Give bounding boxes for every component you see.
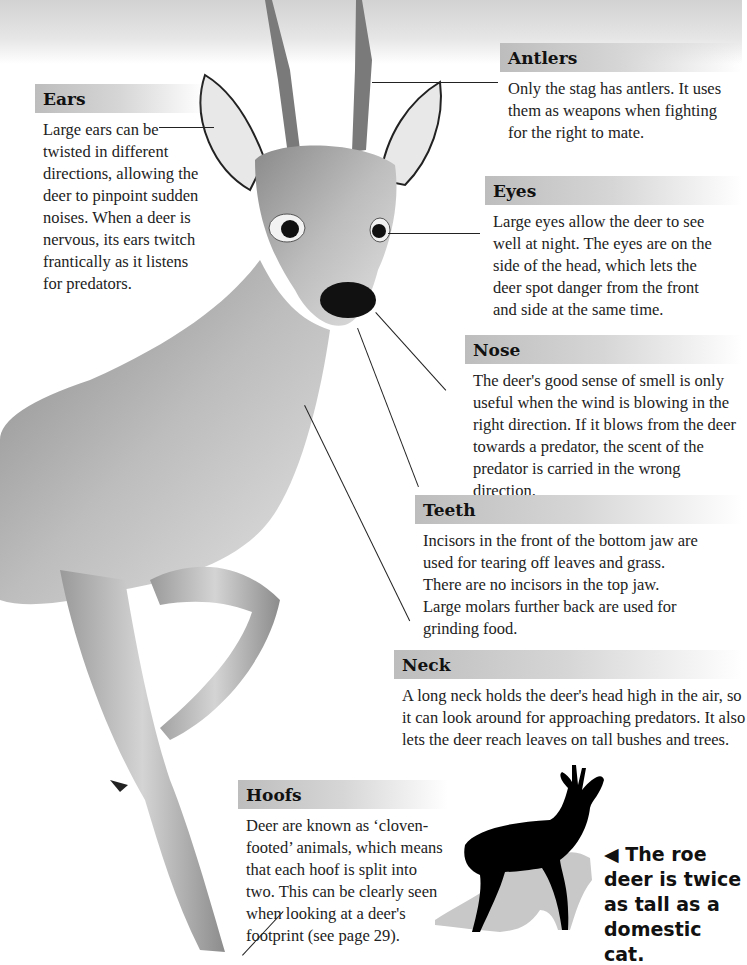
label-antlers: Antlers Only the stag has antlers. It us… [500,43,742,144]
label-nose: Nose The deer's good sense of smell is o… [465,335,742,502]
nose-text: The deer's good sense of smell is only u… [465,364,743,502]
eyes-text: Large eyes allow the deer to see well at… [485,205,718,321]
left-arrow-icon: ◀ [604,843,619,865]
hoofs-text: Deer are known as ‘cloven-footed’ animal… [238,809,446,947]
label-eyes: Eyes Large eyes allow the deer to see we… [485,176,742,321]
size-comparison-silhouette [430,760,610,960]
ears-text: Large ears can be twisted in different d… [35,113,205,295]
neck-text: A long neck holds the deer's head high i… [394,679,747,751]
eyes-heading: Eyes [485,176,742,205]
nose-heading: Nose [465,335,742,364]
label-neck: Neck A long neck holds the deer's head h… [394,650,742,751]
antlers-heading: Antlers [500,43,742,72]
label-hoofs: Hoofs Deer are known as ‘cloven-footed’ … [238,780,448,947]
eyes-leader [388,233,480,234]
antlers-leader [372,82,498,83]
label-ears: Ears Large ears can be twisted in differ… [35,84,205,295]
teeth-text: Incisors in the front of the bottom jaw … [415,524,698,640]
caption-text: The roe deer is twice as tall as a domes… [604,843,741,965]
teeth-heading: Teeth [415,495,742,524]
size-comparison-caption: ◀ The roe deer is twice as tall as a dom… [604,842,744,965]
label-teeth: Teeth Incisors in the front of the botto… [415,495,742,640]
neck-heading: Neck [394,650,742,679]
ears-heading: Ears [35,84,205,113]
hoofs-heading: Hoofs [238,780,448,809]
antlers-text: Only the stag has antlers. It uses them … [500,72,733,144]
